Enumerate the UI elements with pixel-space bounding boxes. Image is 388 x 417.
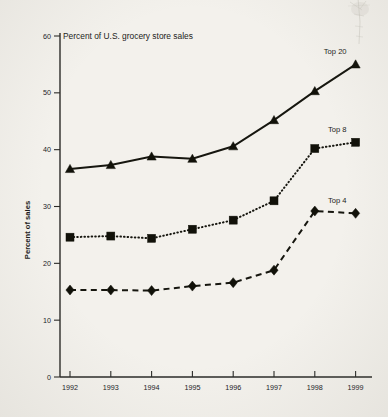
data-point-diamond — [188, 281, 196, 291]
data-point-square — [148, 234, 156, 242]
x-tick-label: 1995 — [184, 383, 200, 392]
x-tick-label: 1992 — [62, 383, 78, 392]
series-top-4 — [66, 206, 360, 296]
data-point-square — [311, 145, 319, 153]
y-tick-label: 20 — [43, 259, 51, 268]
data-point-diamond — [66, 285, 74, 295]
series-top-8 — [66, 138, 360, 242]
x-tick-label: 1999 — [348, 383, 364, 392]
data-point-square — [352, 138, 360, 146]
series-line — [70, 142, 356, 238]
x-axis-ticks: 19921993199419951996199719981999 — [62, 371, 364, 392]
data-point-diamond — [107, 285, 115, 295]
y-tick-label: 60 — [43, 32, 51, 41]
data-point-triangle — [229, 142, 238, 150]
data-point-diamond — [148, 286, 156, 296]
y-axis-ticks: 0102030405060 — [43, 32, 60, 382]
series-label-top-8: Top 8 — [328, 125, 347, 134]
chart-title: Percent of U.S. grocery store sales — [63, 31, 193, 41]
data-point-square — [188, 225, 196, 233]
series-annotations: Top 20Top 8Top 4 — [324, 47, 347, 205]
series-line — [70, 211, 356, 291]
x-tick-label: 1996 — [225, 383, 241, 392]
x-tick-label: 1993 — [103, 383, 119, 392]
y-tick-label: 30 — [43, 202, 51, 211]
data-point-square — [66, 233, 74, 241]
series-group — [65, 60, 360, 296]
data-point-diamond — [229, 278, 237, 288]
x-tick-label: 1994 — [144, 383, 160, 392]
x-tick-label: 1997 — [266, 383, 282, 392]
y-tick-label: 10 — [43, 316, 51, 325]
data-point-triangle — [351, 60, 360, 68]
data-point-square — [270, 197, 278, 205]
series-label-top-4: Top 4 — [328, 196, 347, 205]
data-point-diamond — [352, 208, 360, 218]
y-tick-label: 0 — [47, 373, 51, 382]
line-chart: Percent of U.S. grocery store sales Perc… — [0, 0, 388, 417]
data-point-square — [229, 216, 237, 224]
data-point-triangle — [310, 87, 319, 95]
x-tick-label: 1998 — [307, 383, 323, 392]
y-tick-label: 50 — [43, 88, 51, 97]
y-tick-label: 40 — [43, 145, 51, 154]
data-point-square — [107, 232, 115, 240]
series-line — [70, 64, 356, 169]
series-top-20 — [65, 60, 360, 173]
series-label-top-20: Top 20 — [324, 47, 347, 56]
chart-figure: Percent of U.S. grocery store sales Perc… — [0, 0, 388, 417]
y-axis-label: Percent of sales — [23, 201, 32, 259]
